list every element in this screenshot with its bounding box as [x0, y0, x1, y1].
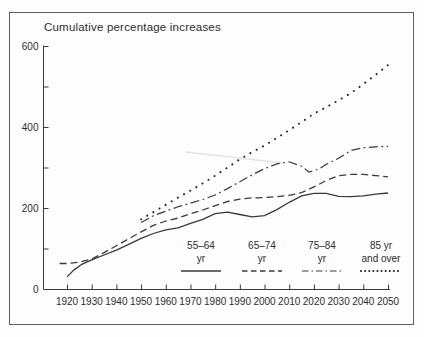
scan-artifact-line [185, 152, 282, 163]
legend-label: and over [346, 253, 416, 266]
legend-label: 75–84 [291, 240, 353, 253]
x-tick-label: 1960 [155, 296, 178, 307]
y-tick-label: 200 [22, 203, 39, 214]
y-tick-label: 600 [22, 41, 39, 52]
y-tick-label: 0 [33, 284, 39, 295]
legend-label: 85 yr [346, 240, 416, 253]
legend-label: yr [291, 253, 353, 266]
legend-line-solid-icon [179, 268, 223, 274]
figure: Cumulative percentage increases 19201930… [0, 0, 424, 337]
x-tick-label: 2000 [253, 296, 276, 307]
legend-label: 65–74 [231, 240, 293, 253]
x-tick-label: 1950 [130, 296, 153, 307]
x-tick-label: 2030 [327, 296, 350, 307]
legend-label: 55–64 [170, 240, 232, 253]
x-tick-label: 2050 [377, 296, 400, 307]
x-tick-label: 2040 [352, 296, 375, 307]
x-tick-label: 1920 [56, 296, 79, 307]
x-tick-label: 1970 [179, 296, 202, 307]
legend-item-75-84: 75–84 yr [291, 240, 353, 274]
x-tick-label: 1980 [204, 296, 227, 307]
legend-line-dashdot-icon [300, 268, 344, 274]
legend-item-85-and-over: 85 yr and over [346, 240, 416, 274]
chart-svg: 1920193019401950196019701980199020002010… [0, 0, 424, 337]
legend-line-dotted-icon [359, 268, 403, 274]
x-tick-label: 2010 [278, 296, 301, 307]
legend-item-55-64: 55–64 yr [170, 240, 232, 274]
series-line-dashdot [141, 146, 388, 222]
legend-line-dashed-icon [240, 268, 284, 274]
legend-label: yr [231, 253, 293, 266]
legend-item-65-74: 65–74 yr [231, 240, 293, 274]
x-tick-label: 1940 [105, 296, 128, 307]
x-tick-label: 1990 [229, 296, 252, 307]
legend-label: yr [170, 253, 232, 266]
x-tick-label: 2020 [303, 296, 326, 307]
y-tick-label: 400 [22, 122, 39, 133]
x-tick-label: 1930 [81, 296, 104, 307]
